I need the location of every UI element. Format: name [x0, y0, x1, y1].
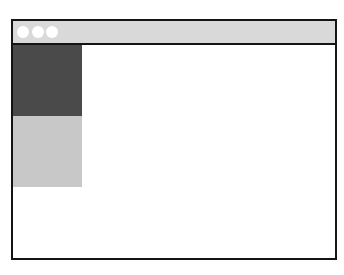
main-content-area	[82, 45, 335, 258]
sidebar	[13, 45, 82, 187]
close-button[interactable]	[17, 26, 29, 38]
minimize-button[interactable]	[32, 26, 44, 38]
title-bar[interactable]	[13, 21, 335, 45]
maximize-button[interactable]	[46, 26, 58, 38]
sidebar-panel-secondary[interactable]	[13, 116, 82, 187]
app-window	[11, 19, 337, 260]
sidebar-panel-primary[interactable]	[13, 45, 82, 116]
